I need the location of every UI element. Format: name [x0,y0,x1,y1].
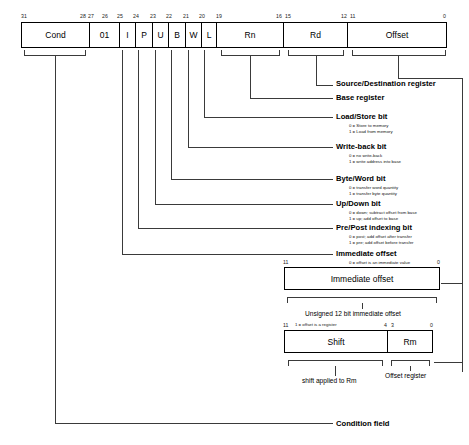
immediate-offset-field-label: Immediate offset [331,274,394,284]
annotation-byte-word-bit-sub-0: 0 = transfer word quantity [349,185,398,190]
annotation-immediate-offset-sub-0: 0 = offset is an immediate value [349,260,410,265]
annotation-byte-word-bit-sub-1: 1 = transfer byte quantity [349,191,397,196]
field-i-label: I [126,30,128,40]
rm-caption: Offset register [385,372,426,380]
rm-field: Rm [388,331,432,352]
immediate-offset-span-tick [362,303,363,309]
field-offset: Offset [348,23,446,47]
annotation-load-store-bit-sub-0: 0 = Store to memory [349,123,388,128]
shift-span-tick [335,366,336,376]
bit-label-24: 24 [133,13,139,19]
bit-label-11: 11 [350,13,356,19]
annotation-source-destination-register: Source/Destination register [336,80,436,89]
register-box-bit-hi: 11 [283,322,289,328]
register-box-bit-mid-lo: 3 [391,322,394,328]
shift-field: Shift [285,331,388,352]
register-offset-note: 1 = offset is a register [295,322,337,327]
annotation-byte-word-bit: Byte/Word bit [336,175,385,184]
field-rn-label: Rn [245,30,256,40]
annotation-load-store-bit-sub-1: 1 = Load from memory [349,129,393,134]
field-p-label: P [141,30,147,40]
immediate-box-bit-lo: 0 [426,259,440,265]
rm-span-tick [410,366,411,371]
shift-field-label: Shift [327,337,344,347]
field-l-label: L [207,30,212,40]
field-rd: Rd [284,23,348,47]
annotation-load-store-bit: Load/Store bit [336,113,387,122]
rm-field-label: Rm [403,337,416,347]
bit-label-22: 22 [166,13,172,19]
register-box-bit-mid-hi: 4 [375,322,387,328]
register-box-bit-lo: 0 [420,322,433,328]
bit-label-21: 21 [183,13,189,19]
annotation-immediate-offset: Immediate offset [336,250,397,259]
leader-cond [55,56,333,424]
annotation-write-back-bit-sub-1: 1 = write address into base [349,159,401,164]
bit-label-16: 16 [264,13,282,19]
annotation-pre-post-indexing-bit-sub-0: 0 = post; add offset after transfer [349,234,412,239]
field-w: W [186,23,202,47]
shift-caption: shift applied to Rm [302,377,357,385]
field-opcode: 01 [90,23,120,47]
register-offset-box: Shift Rm [284,330,433,353]
field-cond-label: Cond [45,30,65,40]
annotation-base-register: Base register [336,94,384,103]
field-cond: Cond [22,23,90,47]
instruction-format-bar: Cond 01 I P U B W L Rn Rd Offset [21,22,447,48]
field-rn: Rn [217,23,284,47]
leader-offset-rail [462,78,463,372]
bit-label-0: 0 [432,13,446,19]
bit-label-28: 28 [68,13,86,19]
annotation-write-back-bit-sub-0: 0 = no write-back [349,153,382,158]
field-u-label: U [157,30,163,40]
annotation-up-down-bit: Up/Down bit [336,200,381,209]
arm-instruction-diagram: 31 28 27 26 25 24 23 22 21 20 19 16 15 1… [0,0,469,445]
bit-label-20: 20 [199,13,205,19]
field-opcode-label: 01 [100,30,109,40]
immediate-offset-caption: Unsigned 12 bit immediate offset [305,310,401,318]
bit-label-23: 23 [150,13,156,19]
immediate-offset-field: Immediate offset [285,268,439,289]
field-rd-label: Rd [310,30,321,40]
bit-label-19: 19 [216,13,222,19]
bit-label-12: 12 [329,13,347,19]
annotation-condition-field: Condition field [336,420,389,429]
field-i: I [120,23,136,47]
field-b: B [169,23,186,47]
field-u: U [153,23,169,47]
immediate-offset-box: Immediate offset [284,267,440,290]
leader-offset-stub [398,56,399,78]
annotation-write-back-bit: Write-back bit [336,143,386,152]
bit-label-27: 27 [88,13,94,19]
bit-label-26: 26 [102,13,108,19]
leader-to-register-box [434,362,463,363]
leader-to-immediate-box [441,283,463,284]
annotation-up-down-bit-sub-1: 1 = up; add offset to base [349,216,398,221]
field-offset-label: Offset [386,30,409,40]
annotation-pre-post-indexing-bit: Pre/Post indexing bit [336,224,412,233]
bit-label-25: 25 [117,13,123,19]
field-p: P [136,23,153,47]
bracket-offset [352,50,446,56]
annotation-up-down-bit-sub-0: 0 = down; subtract offset from base [349,210,417,215]
field-b-label: B [174,30,180,40]
annotation-pre-post-indexing-bit-sub-1: 1 = pre; add offset before transfer [349,240,414,245]
bit-label-15: 15 [285,13,291,19]
bit-label-31: 31 [21,13,27,19]
immediate-box-bit-hi: 11 [283,259,289,265]
field-l: L [202,23,217,47]
field-w-label: W [189,30,197,40]
